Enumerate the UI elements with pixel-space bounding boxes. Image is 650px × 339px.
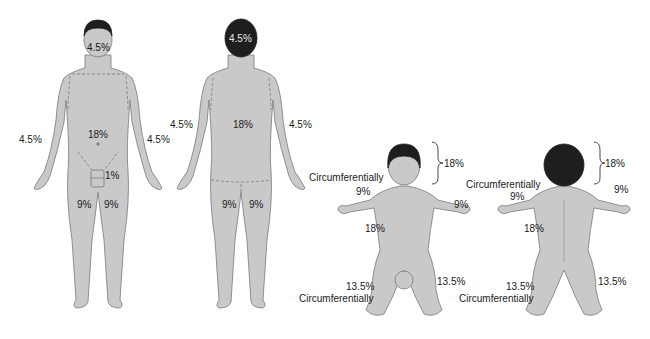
child-front-circumferential-note: Circumferentially (309, 172, 383, 183)
adult-back-left-leg-label: 9% (222, 199, 236, 210)
child-back-right-arm-label: 9% (614, 184, 628, 195)
child-front-right-arm-label: 9% (454, 199, 468, 210)
adult-front-left-leg-label: 9% (77, 199, 91, 210)
child-back-trunk-label: 18% (524, 223, 544, 234)
child-front-trunk-label: 18% (365, 223, 385, 234)
adult-front-trunk-label: 18% (88, 129, 108, 140)
child-back-left-leg-note: Circumferentially (459, 293, 533, 304)
child-back-head-label: 18% (605, 158, 625, 169)
child-front-left-arm-label: 9% (356, 186, 370, 197)
child-front-head-label: 18% (444, 158, 464, 169)
child-front-left-leg-label: 13.5% (346, 281, 374, 292)
adult-front-head-label: 4.5% (87, 42, 110, 53)
adult-front-figure (34, 20, 162, 308)
child-front-left-leg-note: Circumferentially (299, 293, 373, 304)
adult-front-left-arm-label: 4.5% (19, 134, 42, 145)
adult-back-right-arm-label: 4.5% (289, 119, 312, 130)
adult-back-figure (177, 19, 305, 308)
child-back-left-leg-label: 13.5% (506, 281, 534, 292)
adult-front-right-arm-label: 4.5% (147, 134, 170, 145)
adult-front-genitalia-label: 1% (105, 170, 119, 181)
child-back-right-leg-label: 13.5% (598, 276, 626, 287)
adult-back-trunk-label: 18% (233, 119, 253, 130)
child-back-left-arm-label: 9% (510, 191, 524, 202)
child-front-right-leg-label: 13.5% (437, 276, 465, 287)
adult-back-head-label: 4.5% (229, 33, 252, 44)
adult-back-left-arm-label: 4.5% (170, 119, 193, 130)
adult-back-right-leg-label: 9% (249, 199, 263, 210)
child-back-circumferential-note: Circumferentially (466, 179, 540, 190)
adult-front-right-leg-label: 9% (104, 199, 118, 210)
